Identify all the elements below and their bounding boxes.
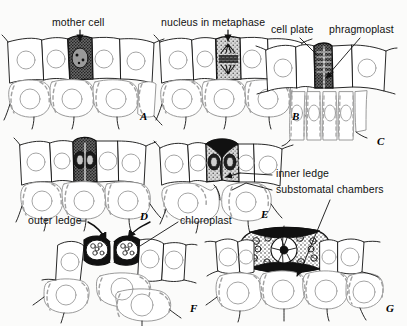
panel-letter-d: D — [140, 210, 148, 222]
stomatal-development-figure — [0, 0, 407, 326]
label-nucleus-in-metaphase: nucleus in metaphase — [161, 17, 265, 28]
panel-letter-g: G — [386, 302, 394, 314]
panel-f-diagram — [33, 221, 197, 326]
panel-letter-b: B — [292, 110, 299, 122]
panel-letter-f: F — [190, 302, 197, 314]
label-outer-ledge: outer ledge — [28, 215, 82, 226]
label-cell-plate: cell plate — [271, 24, 313, 35]
panel-letter-c: C — [377, 135, 384, 147]
label-chloroplast: chloroplast — [180, 215, 232, 226]
panel-letter-e: E — [261, 208, 268, 220]
label-mother-cell: mother cell — [52, 17, 104, 28]
label-substomatal-chambers: substomatal chambers — [276, 184, 384, 195]
panel-letter-a: A — [140, 110, 147, 122]
label-phragmoplast: phragmoplast — [329, 24, 394, 35]
label-inner-ledge: inner ledge — [276, 168, 329, 179]
